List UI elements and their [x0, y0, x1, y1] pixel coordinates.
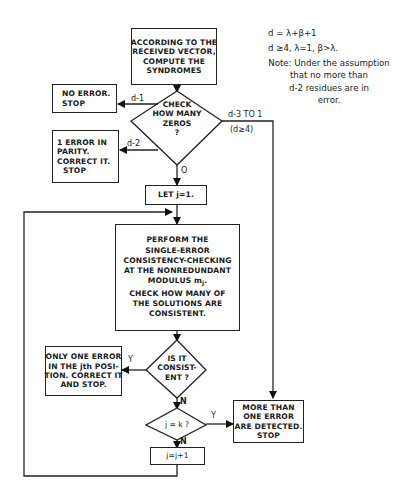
assumption-note: Note: Under the assumption that no more … [249, 57, 409, 107]
edge-label-zero: O [181, 166, 187, 175]
edge-label-jk-yes: Y [211, 411, 216, 420]
box-line: TION. CORRECT IT [44, 371, 122, 380]
note-line: that no more than [249, 69, 409, 81]
box-line: PERFORM THE [146, 235, 208, 245]
edge-label-consistent-yes: Y [128, 355, 133, 364]
box-line: STOP [62, 99, 85, 108]
box-line: COMPUTE THE [143, 57, 205, 66]
j-equals-k-decision: j = k ? [150, 420, 204, 429]
box-line: CHECK HOW MANY OF [129, 289, 225, 299]
box-line: IN THE jth POSI- [48, 362, 119, 371]
increment-j-box: j=j+1 [150, 447, 205, 465]
check-zeros-decision: CHECK HOW MANY ZEROS ? [147, 100, 207, 138]
box-line: PARITY. [57, 147, 89, 156]
box-line: NO ERROR. [62, 89, 111, 98]
box-line: RECEIVED VECTOR, [132, 47, 215, 56]
box-line: SINGLE-ERROR [145, 246, 209, 256]
decision-line: IS IT [150, 354, 204, 363]
parity-error-box: 1 ERROR IN PARITY. CORRECT IT. STOP [52, 130, 119, 183]
decision-line: CONSIST- [150, 363, 204, 372]
decision-line: ? [147, 128, 207, 137]
box-line: LET j=1. [158, 190, 194, 199]
box-line: MORE THAN [242, 403, 294, 412]
box-line: STOP [257, 431, 280, 440]
edge-label-d-2: d-2 [127, 139, 140, 148]
note-line: error. [249, 94, 409, 106]
box-line: AND STOP. [60, 380, 106, 389]
edge-label-consistent-no: N [180, 397, 187, 406]
box-line: ACCORDING TO THE [131, 38, 217, 47]
box-line: SYNDROMES [146, 66, 201, 75]
no-error-box: NO ERROR. STOP [52, 84, 117, 113]
modulus-subscript: j [202, 279, 204, 286]
let-j-box: LET j=1. [145, 185, 207, 205]
formula-d: d = λ+β+1 [268, 27, 317, 39]
decision-line: ZEROS [147, 119, 207, 128]
multiple-errors-box: MORE THAN ONE ERROR ARE DETECTED. STOP [233, 400, 304, 443]
modulus-line: MODULUS mj. [148, 276, 207, 287]
box-line: ONLY ONE ERROR [46, 352, 122, 361]
edge-label-d-3-to-1: d-3 TO 1 [228, 110, 262, 119]
box-line: 1 ERROR IN [57, 138, 107, 147]
box-line: THE SOLUTIONS ARE [133, 299, 223, 309]
is-consistent-decision: IS IT CONSIST- ENT ? [150, 354, 204, 382]
decision-line: ENT ? [150, 373, 204, 382]
box-line: CONSISTENT. [149, 309, 206, 319]
box-line: ARE DETECTED. [235, 422, 303, 431]
box-line: STOP [57, 166, 86, 175]
note-line: Note: Under the assumption [249, 57, 409, 69]
box-line: AT THE NONREDUNDANT [124, 266, 231, 276]
box-line: j=j+1 [166, 451, 188, 460]
compute-syndromes-box: ACCORDING TO THE RECEIVED VECTOR, COMPUT… [131, 28, 217, 85]
decision-line: j = k ? [150, 420, 204, 429]
note-line: d-2 residues are in [249, 82, 409, 94]
modulus-label: MODULUS m [148, 276, 202, 285]
decision-line: HOW MANY [147, 109, 207, 118]
box-line: CORRECT IT. [57, 157, 110, 166]
decision-line: CHECK [147, 100, 207, 109]
edge-label-d-ge-4: (d≥4) [230, 125, 253, 134]
one-error-box: ONLY ONE ERROR IN THE jth POSI- TION. CO… [45, 346, 122, 396]
edge-label-jk-no: N [180, 437, 187, 446]
box-line: ONE ERROR [243, 412, 294, 421]
consistency-check-box: PERFORM THE SINGLE-ERROR CONSISTENCY-CHE… [115, 224, 240, 331]
box-line: CONSISTENCY-CHECKING [124, 256, 232, 266]
edge-label-d-1: d-1 [131, 94, 144, 103]
formula-constraints: d ≥4, λ=1, β>λ. [268, 42, 338, 54]
